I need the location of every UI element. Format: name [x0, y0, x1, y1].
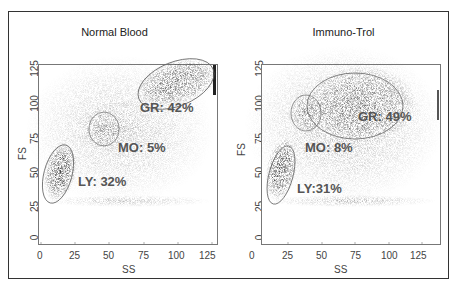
- x-tick-0: 0: [249, 250, 255, 261]
- x-tick-marks: [288, 242, 422, 245]
- x-tick-125: 125: [410, 250, 427, 261]
- scatter-layer: GR: 42% MO: 5% LY: 32%: [0, 0, 229, 288]
- x-tick-50: 50: [316, 250, 327, 261]
- scatter-layer: GR: 49% MO: 8% LY:31%: [229, 0, 458, 288]
- x-tick-50: 50: [103, 250, 114, 261]
- edge-events: [437, 90, 439, 120]
- gate-label-ly: LY:31%: [297, 181, 342, 196]
- gate-label-ly: LY: 32%: [78, 174, 127, 189]
- x-tick-marks: [41, 242, 212, 245]
- x-tick-25: 25: [69, 250, 80, 261]
- gate-label-gr: GR: 42%: [140, 100, 194, 115]
- gate-label-mo: MO: 5%: [118, 140, 166, 155]
- gate-label-gr: GR: 49%: [358, 109, 412, 124]
- x-axis-title: SS: [334, 264, 347, 275]
- x-tick-75: 75: [350, 250, 361, 261]
- x-tick-100: 100: [381, 250, 398, 261]
- x-tick-125: 125: [199, 250, 216, 261]
- x-tick-0: 0: [37, 250, 43, 261]
- gate-label-mo: MO: 8%: [305, 140, 353, 155]
- event-density: [244, 45, 444, 207]
- x-tick-100: 100: [168, 250, 185, 261]
- x-tick-25: 25: [282, 250, 293, 261]
- panel-immuno-trol: Immuno-Trol 125 100 75 50 25 0 FS GR: 49: [229, 0, 458, 288]
- x-axis-title: SS: [122, 264, 135, 275]
- panel-normal-blood: Normal Blood 125 100 75 50 25 0 FS GR: 4: [0, 0, 229, 288]
- x-tick-75: 75: [138, 250, 149, 261]
